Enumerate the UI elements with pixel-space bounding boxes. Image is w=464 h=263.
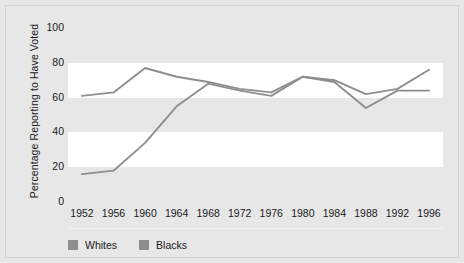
chart-legend: WhitesBlacks xyxy=(68,238,209,252)
legend-label: Whites xyxy=(85,239,117,251)
x-axis-tick-labels: 1952195619601964196819721976198019841988… xyxy=(68,206,443,222)
x-tick-label: 1996 xyxy=(407,206,451,220)
y-tick-label: 60 xyxy=(34,92,64,103)
y-tick-label: 40 xyxy=(34,126,64,137)
chart-figure: Percentage Reporting to Have Voted 02040… xyxy=(0,0,464,263)
chart-frame: Percentage Reporting to Have Voted 02040… xyxy=(5,5,459,258)
series-lines xyxy=(68,28,443,202)
legend-item-blacks[interactable]: Blacks xyxy=(139,239,187,251)
y-tick-label: 20 xyxy=(34,161,64,172)
series-line-whites xyxy=(82,68,429,96)
legend-swatch-icon xyxy=(139,240,149,250)
y-axis-tick-labels: 020406080100 xyxy=(32,28,64,202)
legend-label: Blacks xyxy=(156,239,187,251)
y-tick-label: 80 xyxy=(34,57,64,68)
legend-swatch-icon xyxy=(68,240,78,250)
legend-item-whites[interactable]: Whites xyxy=(68,239,117,251)
y-tick-label: 100 xyxy=(34,22,64,33)
plot-area xyxy=(68,28,443,202)
legend-divider xyxy=(68,228,443,229)
